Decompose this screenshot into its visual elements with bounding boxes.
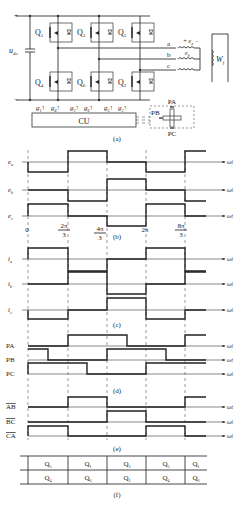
hall-sensor-icon bbox=[159, 106, 181, 129]
ib-waveform bbox=[28, 272, 206, 294]
caption-f: (f) bbox=[114, 491, 122, 499]
svg-text:3: 3 bbox=[62, 231, 66, 239]
ic-waveform bbox=[28, 298, 206, 319]
svg-text:PB: PB bbox=[6, 356, 15, 364]
caption-e: (e) bbox=[113, 445, 121, 453]
svg-text:8π: 8π bbox=[177, 222, 185, 230]
diode-icon bbox=[108, 79, 112, 83]
svg-text:Q4: Q4 bbox=[35, 78, 44, 88]
coil-c-icon bbox=[178, 69, 200, 71]
svg-text:ec: ec bbox=[8, 212, 13, 221]
svg-text:3: 3 bbox=[98, 234, 102, 242]
diode-icon bbox=[67, 79, 71, 83]
caption-c: (c) bbox=[113, 321, 121, 329]
svg-text:Q2: Q2 bbox=[123, 474, 130, 483]
coil-b-icon bbox=[178, 58, 200, 60]
svg-text:PA: PA bbox=[6, 342, 14, 350]
diode-icon bbox=[149, 79, 153, 83]
svg-text:ωt: ωt bbox=[227, 213, 233, 219]
svg-text:ωt: ωt bbox=[227, 187, 233, 193]
svg-text:Q2: Q2 bbox=[118, 78, 127, 88]
sensor-pa-label: PA bbox=[168, 98, 176, 106]
emf-a-label: + ea − bbox=[183, 38, 199, 46]
svg-text:ωt: ωt bbox=[227, 343, 233, 349]
svg-text:ib: ib bbox=[8, 280, 12, 289]
svg-text:g1↑: g1↑ bbox=[36, 104, 45, 113]
svg-text:g6↑: g6↑ bbox=[84, 104, 93, 113]
svg-text:Q4: Q4 bbox=[162, 474, 169, 483]
coil-a-icon bbox=[178, 47, 200, 49]
svg-text:Q1: Q1 bbox=[35, 28, 44, 38]
svg-text:g2↑: g2↑ bbox=[118, 104, 127, 113]
inverter-circuit: + − udc Q1 bbox=[9, 12, 228, 143]
phase-c-label: c bbox=[167, 62, 170, 70]
logic-waveforms: AB BC CA ωt ωt ωt bbox=[6, 397, 233, 440]
svg-text:ωt: ωt bbox=[227, 404, 233, 410]
control-unit-label: CU bbox=[78, 117, 89, 126]
svg-text:ωt: ωt bbox=[227, 281, 233, 287]
sensor-pb-label: PB bbox=[151, 109, 160, 117]
caption-d: (d) bbox=[113, 387, 122, 395]
angle-ticks: 0 2π 3 4π 3 2π 8π 3 bbox=[25, 222, 187, 242]
svg-text:g3↑: g3↑ bbox=[70, 104, 79, 113]
minus-sign: − bbox=[14, 96, 18, 104]
leg-c bbox=[139, 16, 141, 100]
svg-text:Q5: Q5 bbox=[162, 460, 169, 469]
switch-q2: Q2 bbox=[118, 72, 154, 91]
svg-text:ωt: ωt bbox=[227, 357, 233, 363]
svg-text:ωt: ωt bbox=[227, 419, 233, 425]
svg-text:ωt: ωt bbox=[227, 371, 233, 377]
svg-text:CA: CA bbox=[6, 432, 16, 440]
phase-b-label: b bbox=[167, 51, 171, 59]
caption-b: (b) bbox=[113, 233, 122, 241]
svg-text:ωt: ωt bbox=[227, 307, 233, 313]
svg-text:Q4: Q4 bbox=[44, 474, 51, 483]
svg-text:Q3: Q3 bbox=[123, 460, 130, 469]
gate-signals: g1↑ g4↑ g3↑ g6↑ g5↑ g2↑ bbox=[36, 104, 127, 113]
diode-icon bbox=[108, 30, 112, 34]
svg-text:ea: ea bbox=[8, 158, 13, 167]
svg-text:2π: 2π bbox=[141, 226, 149, 234]
svg-text:3: 3 bbox=[179, 231, 183, 239]
svg-text:Q6: Q6 bbox=[192, 474, 199, 483]
leg-a bbox=[57, 16, 59, 100]
bc-waveform bbox=[28, 411, 206, 422]
motor-drive-diagram: + − udc Q1 bbox=[0, 0, 238, 509]
svg-text:Q1: Q1 bbox=[192, 460, 199, 469]
svg-text:ia: ia bbox=[8, 255, 12, 264]
hall-waveforms: PA PB PC ωt ωt ωt bbox=[6, 335, 233, 378]
emf-b-label: eb bbox=[185, 50, 190, 58]
switch-q1: Q1 bbox=[35, 23, 72, 42]
svg-text:g5↑: g5↑ bbox=[104, 104, 113, 113]
svg-text:0: 0 bbox=[25, 226, 29, 234]
emf-waveforms: ea eb ec ωt ωt ωt bbox=[8, 151, 233, 226]
svg-text:Q6: Q6 bbox=[77, 78, 86, 88]
svg-text:Q1: Q1 bbox=[84, 460, 91, 469]
current-waveforms: ia ib ic ωt ωt ωt bbox=[8, 248, 233, 319]
phase-a-label: a bbox=[167, 40, 171, 48]
ia-waveform bbox=[28, 248, 206, 271]
svg-text:Q5: Q5 bbox=[118, 28, 127, 38]
switch-q4: Q4 bbox=[35, 72, 72, 91]
conduction-table: Q5 Q1 Q3 Q5 Q1 Q4 Q6 Q2 Q4 Q6 bbox=[20, 456, 207, 484]
svg-text:Wf: Wf bbox=[216, 55, 225, 65]
svg-text:Q5: Q5 bbox=[44, 460, 51, 469]
diode-icon bbox=[149, 30, 153, 34]
plus-sign: + bbox=[14, 12, 18, 20]
svg-text:ωt: ωt bbox=[227, 159, 233, 165]
svg-text:ωt: ωt bbox=[227, 433, 233, 439]
svg-text:Q3: Q3 bbox=[77, 28, 86, 38]
pa-waveform bbox=[28, 335, 206, 346]
svg-text:4π: 4π bbox=[96, 225, 104, 233]
ca-waveform bbox=[28, 426, 206, 436]
svg-text:ωt: ωt bbox=[227, 256, 233, 262]
diode-icon bbox=[67, 30, 71, 34]
ab-waveform bbox=[28, 397, 206, 407]
svg-text:eb: eb bbox=[8, 186, 13, 195]
ea-waveform bbox=[28, 151, 206, 172]
svg-text:ic: ic bbox=[8, 306, 12, 315]
pb-waveform bbox=[28, 349, 206, 360]
svg-text:BC: BC bbox=[6, 418, 16, 426]
field-winding: Wf bbox=[212, 34, 228, 82]
switch-q6: Q6 bbox=[77, 72, 113, 91]
